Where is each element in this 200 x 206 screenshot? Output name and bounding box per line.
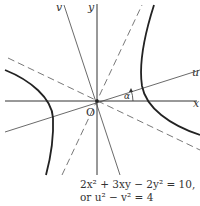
v-axis xyxy=(64,5,120,175)
equation-caption: 2x² + 3xy − 2y² = 10, or u² − v² = 4 xyxy=(80,178,195,204)
equation-line-2: or u² − v² = 4 xyxy=(80,191,195,204)
origin-label: O xyxy=(86,106,95,119)
angle-label: α xyxy=(124,91,130,101)
v-axis-label: v xyxy=(56,1,63,14)
y-axis-label: y xyxy=(87,1,95,14)
equation-line-1: 2x² + 3xy − 2y² = 10, xyxy=(80,178,195,191)
x-axis-label: x xyxy=(193,97,200,110)
hyperbola-diagram: x y u v O α xyxy=(0,0,200,206)
hyperbola-left-branch xyxy=(5,70,53,175)
asymptote-1 xyxy=(8,58,200,150)
u-axis-label: u xyxy=(192,66,199,79)
origin-point xyxy=(95,99,99,103)
